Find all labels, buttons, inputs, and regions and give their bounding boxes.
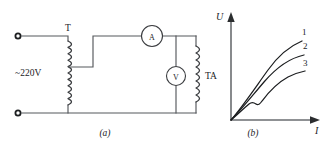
circuit-diagram: ~220V T A V TA (a) [15,23,217,139]
transformer-winding [68,41,72,105]
x-axis-label: I [314,125,319,136]
y-axis-label: U [216,11,224,22]
wire-transformer-tap [69,36,141,67]
curve-label-3: 3 [303,58,308,68]
supply-label: ~220V [15,68,41,78]
ui-curve-chart: U I 1 2 3 (b) [216,11,320,139]
supply-terminal-bottom [15,110,20,115]
curve-label-2: 2 [303,41,308,51]
curve-label-1: 1 [302,27,307,37]
supply-terminal-top [15,33,20,38]
x-axis-arrow [310,116,320,123]
figure-svg: ~220V T A V TA (a) U I [0,0,331,148]
wire-supply-top [22,36,68,41]
caption-b: (b) [247,128,258,139]
y-axis-arrow [227,12,234,22]
ta-label: TA [205,71,217,81]
ammeter-label: A [149,33,155,42]
transformer-label: T [65,23,71,33]
caption-a: (a) [99,128,110,139]
voltmeter-label: V [173,73,179,82]
figure-root: ~220V T A V TA (a) U I [0,0,331,148]
ta-winding [196,46,200,102]
